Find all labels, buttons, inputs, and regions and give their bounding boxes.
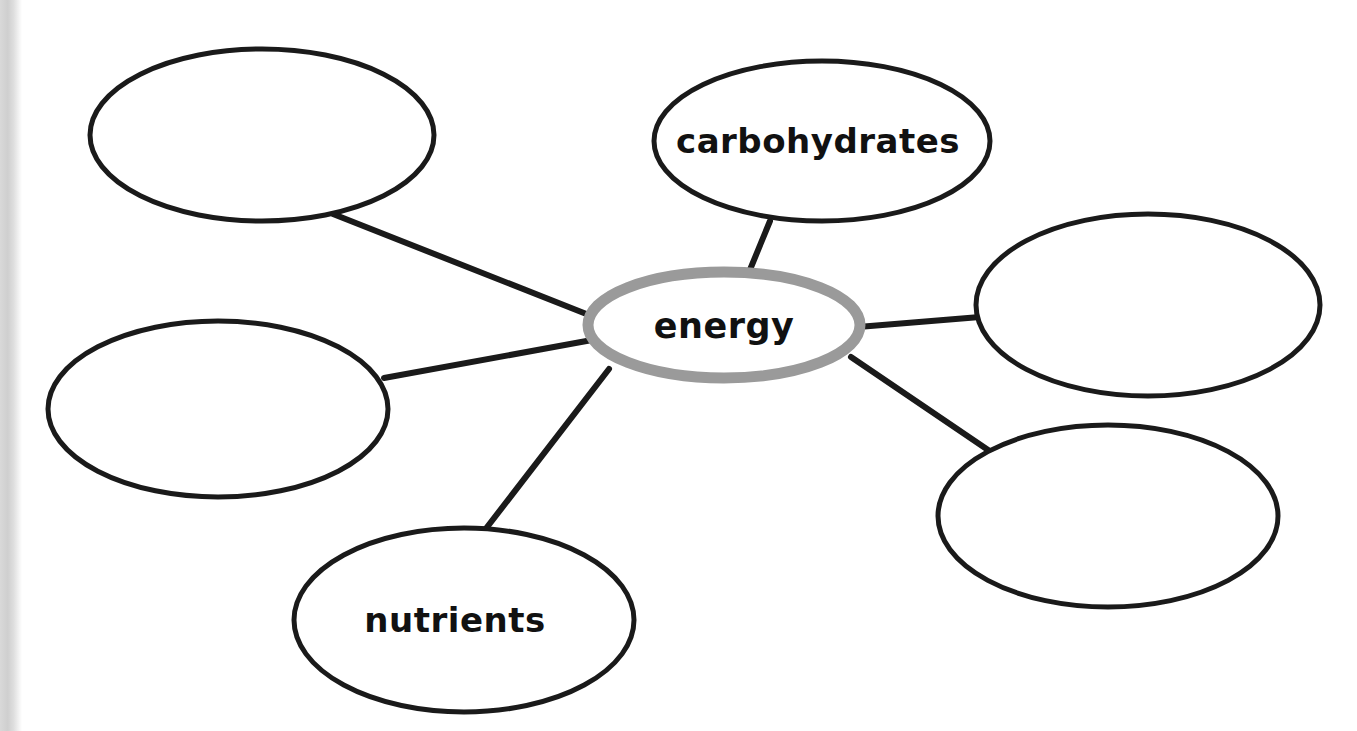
center-node-label: energy — [654, 306, 795, 346]
node-left-middle[interactable] — [48, 321, 388, 497]
concept-map-diagram: carbohydratesnutrients energy — [0, 0, 1357, 731]
connector-nutrients — [481, 369, 609, 535]
node-top-left[interactable] — [90, 49, 434, 221]
center-node-layer: energy — [588, 272, 860, 378]
connector-top-left — [333, 214, 594, 317]
connector-left-middle — [384, 340, 592, 378]
node-nutrients[interactable]: nutrients — [294, 528, 634, 712]
node-right-upper[interactable] — [976, 214, 1320, 396]
center-node[interactable]: energy — [588, 272, 860, 378]
node-right-lower-outline[interactable] — [938, 425, 1278, 607]
node-top-left-outline[interactable] — [90, 49, 434, 221]
node-right-upper-outline[interactable] — [976, 214, 1320, 396]
node-carbohydrates[interactable]: carbohydrates — [654, 61, 990, 221]
node-carbohydrates-label: carbohydrates — [676, 121, 960, 161]
node-nutrients-label: nutrients — [364, 600, 545, 640]
node-right-lower[interactable] — [938, 425, 1278, 607]
connector-right-lower — [851, 357, 994, 454]
node-left-middle-outline[interactable] — [48, 321, 388, 497]
worksheet-page: carbohydratesnutrients energy — [0, 0, 1357, 731]
connector-right-upper — [858, 317, 980, 327]
